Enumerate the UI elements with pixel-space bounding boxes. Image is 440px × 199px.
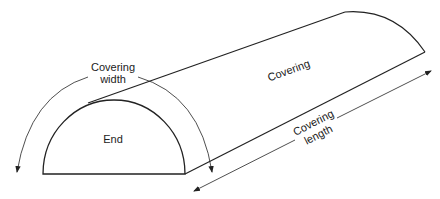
covering-length-arrow-lower (194, 140, 295, 191)
end-label: End (103, 133, 123, 145)
covering-width-arrow-right (138, 77, 212, 172)
covering-label: Covering (266, 57, 311, 83)
covering-width-label-line2: width (99, 73, 126, 85)
half-cylinder-diagram: Covering width End Covering Covering len… (0, 0, 440, 199)
covering-width-arrow-left (17, 77, 88, 172)
covering-length-arrow-upper (337, 71, 431, 118)
far-end-arc (345, 12, 425, 52)
covering-width-label-line1: Covering (91, 61, 135, 73)
